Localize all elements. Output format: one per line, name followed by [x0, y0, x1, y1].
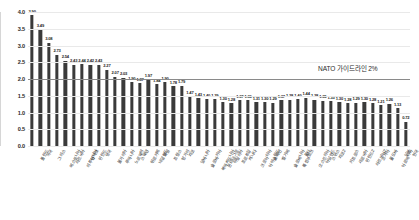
bar[interactable]: [371, 103, 374, 146]
bar[interactable]: [321, 101, 324, 146]
bar-value-label: 1.28: [228, 98, 235, 102]
bar[interactable]: [138, 83, 141, 146]
bar[interactable]: [213, 99, 216, 146]
bar-value-label: 1.79: [178, 80, 185, 84]
bar-value-label: 1.13: [394, 103, 401, 107]
bar[interactable]: [163, 82, 166, 146]
bar[interactable]: [271, 103, 274, 146]
nato-guideline-label: NATO 가이드라인 2%: [318, 63, 378, 73]
bar-value-label: 1.30: [261, 97, 268, 101]
y-axis-tick-label: 0.0: [18, 143, 25, 149]
bar[interactable]: [105, 70, 108, 146]
bar-value-label: 3.49: [37, 24, 44, 28]
bar[interactable]: [97, 65, 100, 146]
bar-value-label: 1.31: [253, 97, 260, 101]
bar[interactable]: [47, 43, 50, 146]
bar[interactable]: [263, 102, 266, 146]
bar[interactable]: [230, 103, 233, 146]
bar[interactable]: [255, 102, 258, 146]
nato-guideline-line: [28, 79, 410, 80]
bar[interactable]: [114, 77, 117, 146]
bar-value-label: 3.08: [45, 37, 52, 41]
bar-value-label: 1.26: [386, 98, 393, 102]
bar-value-label: 1.28: [344, 98, 351, 102]
bar[interactable]: [404, 122, 407, 146]
bar[interactable]: [89, 65, 92, 146]
bar[interactable]: [55, 55, 58, 146]
bar[interactable]: [72, 65, 75, 146]
gridline: [28, 129, 410, 130]
bar[interactable]: [188, 97, 191, 146]
bar[interactable]: [246, 100, 249, 146]
bar[interactable]: [363, 102, 366, 146]
y-axis-tick-label: 2.0: [18, 76, 25, 82]
gridline: [28, 12, 410, 13]
gridline: [28, 46, 410, 47]
bar-value-label: 2.54: [62, 55, 69, 59]
bar-value-label: 1.30: [220, 97, 227, 101]
x-axis-label: 알바니아: [200, 149, 211, 165]
bar[interactable]: [338, 102, 341, 146]
bar[interactable]: [221, 102, 224, 146]
bar-value-label: 1.78: [170, 81, 177, 85]
bar[interactable]: [388, 104, 391, 146]
x-axis-label: 그리스: [57, 149, 66, 161]
bar[interactable]: [30, 15, 33, 146]
bar-value-label: 2.27: [103, 64, 110, 68]
bar-value-label: 2.03: [120, 72, 127, 76]
x-axis-label: 영국: [105, 149, 112, 158]
gridline: [28, 113, 410, 114]
bar[interactable]: [64, 61, 67, 146]
bar[interactable]: [313, 100, 316, 146]
bar-value-label: 1.47: [186, 91, 193, 95]
bar-value-label: 0.72: [402, 116, 409, 120]
x-axis-label: 미국: [47, 149, 54, 158]
bar[interactable]: [80, 64, 83, 146]
bar[interactable]: [396, 108, 399, 146]
x-axis-label: 체코2: [338, 149, 347, 160]
bar-value-label: 1.30: [361, 97, 368, 101]
bar[interactable]: [305, 98, 308, 146]
bar-value-label: 1.29: [269, 97, 276, 101]
bar-value-label: 2.73: [53, 49, 60, 53]
bar[interactable]: [354, 103, 357, 146]
bar[interactable]: [346, 103, 349, 146]
bar[interactable]: [288, 100, 291, 146]
y-axis-tick-label: 3.0: [18, 43, 25, 49]
y-axis-tick-label: 4.0: [18, 9, 25, 15]
bar-value-label: 1.28: [369, 98, 376, 102]
bar[interactable]: [205, 99, 208, 146]
bar-value-label: 1.29: [352, 97, 359, 101]
x-axis-label: 체코: [188, 149, 195, 158]
bar-value-label: 1.30: [336, 97, 343, 101]
y-axis-tick-label: 2.5: [18, 59, 25, 65]
bar-value-label: 2.07: [112, 71, 119, 75]
bar[interactable]: [130, 82, 133, 146]
bar[interactable]: [238, 100, 241, 146]
bar[interactable]: [296, 99, 299, 146]
y-axis-tick-label: 1.0: [18, 110, 25, 116]
bar[interactable]: [329, 101, 332, 146]
x-axis-label: 독일: [163, 149, 170, 158]
gridline: [28, 96, 410, 97]
y-axis-tick-label: 3.5: [18, 26, 25, 32]
bar[interactable]: [280, 100, 283, 146]
bar-value-label: 1.97: [145, 74, 152, 78]
y-axis-tick-label: 1.5: [18, 93, 25, 99]
bar[interactable]: [197, 98, 200, 146]
x-axis-label: 한국: [412, 149, 419, 158]
x-axis-category-labels: 폴란드미국그리스에스토니아라트비아리투아니아덴마크핀란드영국불가리아루마니아노르…: [28, 147, 410, 217]
plot-area: 3.903.493.082.732.542.432.442.422.432.27…: [28, 12, 410, 146]
bar-value-label: 1.21: [377, 100, 384, 104]
bar[interactable]: [155, 84, 158, 146]
gridline: [28, 29, 410, 30]
y-axis-tick-label: 0.5: [18, 126, 25, 132]
y-axis: 0.00.51.01.52.02.53.03.54.0: [0, 12, 28, 146]
